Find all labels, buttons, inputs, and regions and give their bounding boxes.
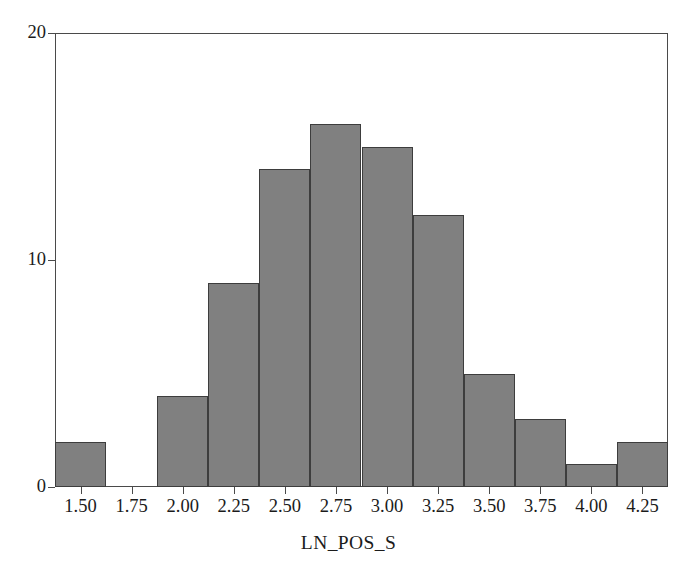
histogram-bar [208, 283, 259, 487]
x-axis-tick [132, 487, 133, 494]
x-axis-tick [438, 487, 439, 494]
x-axis-tick-label: 4.25 [607, 497, 677, 516]
x-axis-tick [489, 487, 490, 494]
histogram-bar [362, 147, 413, 488]
histogram-bar [464, 374, 515, 488]
y-axis-tick [48, 260, 55, 261]
y-axis-tick [48, 33, 55, 34]
y-axis-tick-label: 0 [0, 477, 46, 496]
x-axis-tick [387, 487, 388, 494]
x-axis-tick [81, 487, 82, 494]
histogram-bar [617, 442, 668, 487]
y-axis-tick [48, 487, 55, 488]
histogram-bar [259, 169, 310, 487]
histogram-bar [515, 419, 566, 487]
histogram-bar [413, 215, 464, 487]
bars-layer [55, 33, 668, 487]
x-axis-tick [642, 487, 643, 494]
x-axis-title: LN_POS_S [0, 532, 697, 554]
y-axis-tick-label: 10 [0, 250, 46, 269]
x-axis-tick [591, 487, 592, 494]
histogram-bar [310, 124, 361, 487]
x-axis-tick [285, 487, 286, 494]
x-axis-tick [234, 487, 235, 494]
y-axis-tick-label: 20 [0, 23, 46, 42]
histogram-bar [55, 442, 106, 487]
x-axis-tick [336, 487, 337, 494]
histogram-figure: LN_POS_S 010201.501.752.002.252.502.753.… [0, 0, 697, 583]
x-axis-tick [183, 487, 184, 494]
x-axis-tick [540, 487, 541, 494]
histogram-bar [566, 464, 617, 487]
histogram-bar [157, 396, 208, 487]
